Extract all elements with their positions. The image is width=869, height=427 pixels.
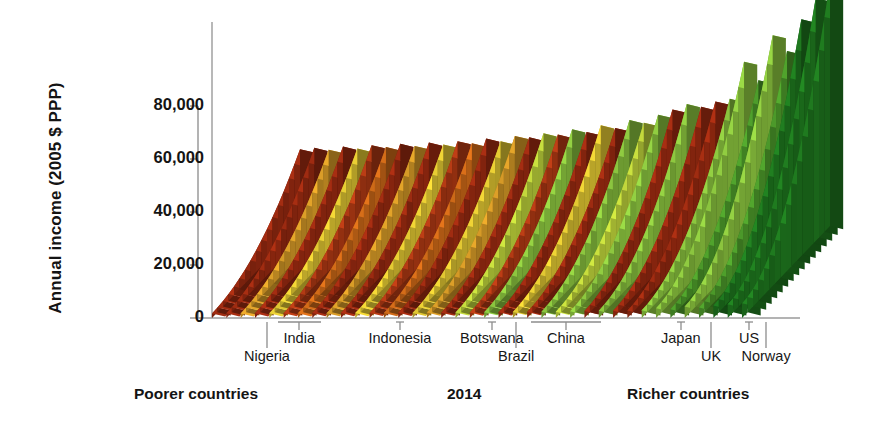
caption-poorer: Poorer countries: [134, 385, 258, 403]
y-axis-label: Annual income (2005 $ PPP): [46, 48, 66, 348]
country-marker-norway: Norway: [742, 348, 791, 364]
y-tick-0: 0: [96, 307, 204, 326]
y-tick-80000: 80,000: [96, 95, 204, 114]
country-marker-brazil: Brazil: [498, 348, 534, 364]
country-marker-indonesia: Indonesia: [369, 330, 432, 346]
country-marker-china: China: [547, 330, 585, 346]
y-tick-20000: 20,000: [96, 254, 204, 273]
caption-richer: Richer countries: [627, 385, 749, 403]
caption-year: 2014: [447, 385, 481, 403]
y-tick-40000: 40,000: [96, 201, 204, 220]
country-marker-nigeria: Nigeria: [244, 348, 290, 364]
y-tick-60000: 60,000: [96, 148, 204, 167]
country-marker-botswana: Botswana: [460, 330, 524, 346]
country-marker-japan: Japan: [661, 330, 701, 346]
country-marker-uk: UK: [701, 348, 721, 364]
country-marker-us: US: [739, 330, 759, 346]
income-distribution-figure: Annual income (2005 $ PPP) 020,00040,000…: [0, 0, 869, 427]
country-marker-india: India: [284, 330, 315, 346]
